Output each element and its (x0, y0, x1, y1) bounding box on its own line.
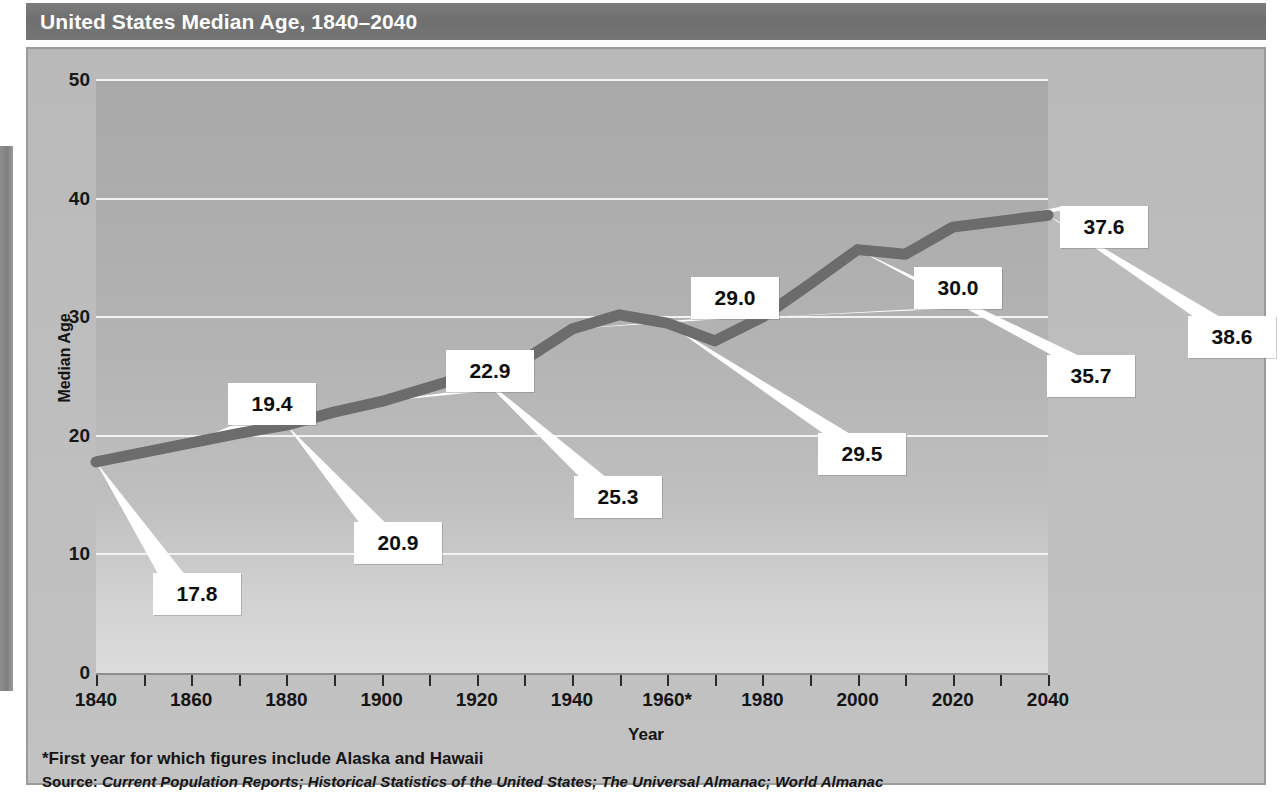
x-axis-tick-label: 2020 (932, 689, 974, 711)
chart-title-banner: United States Median Age, 1840–2040 (26, 3, 1266, 40)
callout-leader (667, 323, 848, 433)
y-axis-tick-labels: 50403020100 (50, 80, 90, 673)
data-label-callout: 22.9 (446, 350, 534, 392)
callout-leader (762, 309, 944, 317)
x-axis-tick (620, 675, 622, 686)
y-axis-tick-label: 50 (69, 69, 90, 91)
x-axis-tick-label: 1900 (360, 689, 402, 711)
x-axis-tick-label: 2040 (1027, 689, 1069, 711)
callout-leader (96, 462, 184, 573)
x-axis-tick (715, 675, 717, 686)
x-axis-tick-label: 1960* (642, 689, 692, 711)
page-title: United States Median Age, 1840–2040 (40, 10, 417, 34)
data-label-callout: 17.8 (153, 573, 241, 615)
x-axis-tick (144, 675, 146, 686)
x-axis-tick (191, 675, 193, 686)
data-label-callout: 19.4 (228, 383, 316, 425)
x-axis-tick (477, 675, 479, 686)
y-axis-tick-label: 10 (69, 543, 90, 565)
x-axis-tick (239, 675, 241, 686)
data-label-callout: 20.9 (354, 522, 442, 564)
x-axis-tick (762, 675, 764, 686)
data-label-callout: 25.3 (574, 476, 662, 518)
data-label-callout: 29.0 (691, 277, 779, 319)
data-label-callout: 29.5 (818, 433, 906, 475)
callout-leader (286, 425, 384, 522)
chart-panel: Median Age 50403020100 18401860188019001… (26, 47, 1266, 785)
x-axis-tick (1048, 675, 1050, 686)
x-axis-tick (96, 675, 98, 686)
x-axis-tick (1000, 675, 1002, 686)
x-axis-tick (858, 675, 860, 686)
x-axis-tick-label: 1880 (265, 689, 307, 711)
x-axis-tick (572, 675, 574, 686)
x-axis-tick (524, 675, 526, 686)
data-label-callout: 37.6 (1060, 206, 1148, 248)
x-axis-tick (334, 675, 336, 686)
x-axis-tick-label: 1980 (741, 689, 783, 711)
x-axis-tick (429, 675, 431, 686)
data-label-callout: 38.6 (1188, 316, 1276, 358)
x-axis-tick-label: 1860 (170, 689, 212, 711)
x-axis-tick (667, 675, 669, 686)
x-axis-tick-label: 1840 (75, 689, 117, 711)
data-label-callout: 30.0 (914, 267, 1002, 309)
y-axis-tick-label: 20 (69, 425, 90, 447)
source-label: Source: (42, 773, 102, 790)
x-axis-tick (905, 675, 907, 686)
page-edge-artifact (0, 146, 13, 691)
x-axis-tick-label: 2000 (836, 689, 878, 711)
y-axis-tick-label: 30 (69, 306, 90, 328)
y-axis-tick-label: 40 (69, 188, 90, 210)
x-axis-tick (286, 675, 288, 686)
source-text: Current Population Reports; Historical S… (102, 773, 883, 790)
source-line: Source: Current Population Reports; Hist… (42, 773, 883, 790)
y-axis-tick-label: 0 (79, 662, 90, 684)
x-axis-tick-label: 1940 (551, 689, 593, 711)
footnote: *First year for which figures include Al… (42, 749, 484, 769)
data-label-callout: 35.7 (1047, 355, 1135, 397)
x-axis-title: Year (28, 725, 1264, 745)
x-axis-tick-label: 1920 (456, 689, 498, 711)
x-axis-tick (382, 675, 384, 686)
x-axis-tick (810, 675, 812, 686)
x-axis-tick (953, 675, 955, 686)
